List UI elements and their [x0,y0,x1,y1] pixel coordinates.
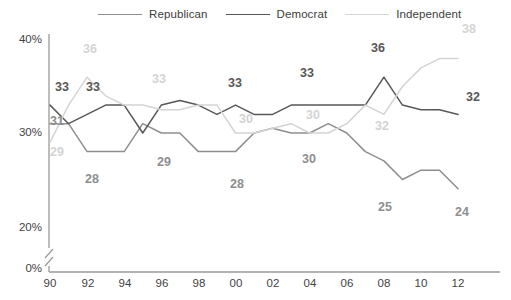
x-tick-label: 92 [76,277,100,289]
data-point-label: 30 [302,152,316,166]
series-line-democrat [50,77,458,133]
data-point-label: 29 [157,155,171,169]
data-point-label: 30 [239,112,253,126]
data-point-label: 36 [371,41,385,55]
data-point-label: 32 [375,119,389,133]
data-point-label: 33 [86,80,100,94]
chart-container: Republican Democrat Independent 40%30%20… [0,0,511,300]
data-point-label: 31 [50,114,64,128]
x-tick-label: 02 [261,277,285,289]
axis-lines [45,34,500,272]
data-point-label: 29 [50,145,64,159]
x-tick-label: 12 [446,277,470,289]
x-tick-label: 96 [150,277,174,289]
x-tick-label: 00 [224,277,248,289]
data-point-label: 33 [228,76,242,90]
data-point-label: 33 [300,66,314,80]
data-point-label: 25 [378,200,392,214]
x-tick-label: 06 [335,277,359,289]
data-point-label: 24 [455,205,469,219]
y-tick-label: 40% [2,33,42,45]
y-axis-break-icon [45,249,53,266]
x-tick-label: 10 [409,277,433,289]
y-tick-label: 0% [2,262,42,274]
data-point-label: 32 [466,90,480,104]
data-point-label: 33 [55,80,69,94]
x-tick-label: 94 [113,277,137,289]
series-lines [50,59,458,189]
x-tick-label: 04 [298,277,322,289]
data-point-label: 28 [230,177,244,191]
x-tick-label: 08 [372,277,396,289]
data-point-label: 28 [85,172,99,186]
x-tick-label: 90 [38,277,62,289]
y-tick-label: 30% [2,126,42,138]
plot-area [0,0,511,300]
data-point-label: 30 [306,108,320,122]
y-tick-label: 20% [2,221,42,233]
series-line-independent [50,59,458,143]
x-tick-label: 98 [187,277,211,289]
data-point-label: 33 [152,72,166,86]
data-point-label: 36 [83,42,97,56]
data-point-label: 38 [462,22,476,36]
